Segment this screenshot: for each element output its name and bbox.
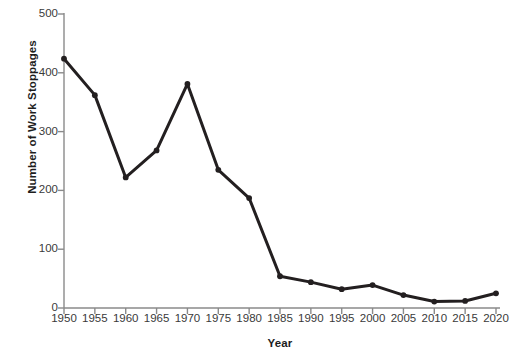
- data-point-marker: [308, 279, 314, 285]
- data-line: [64, 59, 496, 302]
- data-point-marker: [123, 175, 129, 181]
- data-point-marker: [339, 286, 345, 292]
- x-axis-title: Year: [64, 337, 496, 349]
- plot-area: [0, 0, 515, 356]
- data-point-marker: [92, 92, 98, 98]
- data-point-marker: [246, 195, 252, 201]
- data-point-marker: [185, 81, 191, 87]
- axes-group: [58, 13, 500, 314]
- data-point-marker: [154, 148, 160, 154]
- data-point-marker: [370, 282, 376, 288]
- work-stoppages-line-chart: f Number of Work Stoppages 0100200300400…: [0, 0, 515, 356]
- data-point-marker: [401, 292, 407, 298]
- data-point-marker: [493, 290, 499, 296]
- data-point-marker: [61, 56, 67, 62]
- data-point-marker: [431, 299, 437, 305]
- data-series-group: [61, 56, 499, 305]
- data-point-marker: [215, 167, 221, 173]
- data-point-marker: [277, 273, 283, 279]
- data-point-marker: [462, 298, 468, 304]
